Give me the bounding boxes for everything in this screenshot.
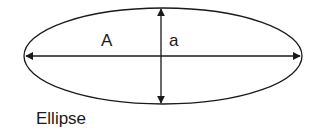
diagram-title: Ellipse [36, 110, 86, 127]
minor-axis-label: a [169, 32, 178, 49]
major-axis-label: A [101, 32, 112, 49]
